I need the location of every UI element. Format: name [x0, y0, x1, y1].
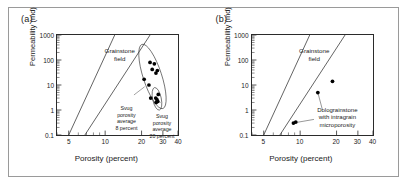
y-tick-label: 100	[238, 57, 249, 64]
y-tick-label: 1	[50, 107, 54, 114]
y-tick-label: 1	[245, 107, 249, 114]
panel-a: (a) 0.11101001000510203040Grainstone fie…	[9, 8, 204, 176]
data-point	[156, 93, 160, 97]
y-tick-label: 10	[47, 82, 54, 89]
data-point	[149, 96, 153, 100]
data-point	[152, 62, 156, 66]
y-tick-label: 10	[241, 82, 248, 89]
grainstone-field-label: Grainstone field	[291, 47, 337, 63]
data-point	[291, 121, 295, 125]
data-point	[148, 61, 152, 65]
data-point	[154, 71, 158, 75]
y-tick-label: 1000	[40, 32, 54, 39]
data-point	[150, 68, 154, 72]
panel-b-y-axis-label: Permeability (md)	[222, 0, 231, 90]
data-point	[154, 101, 158, 105]
x-tick-label: 20	[332, 138, 339, 145]
data-point	[147, 83, 151, 87]
y-tick-label: 1000	[234, 32, 248, 39]
data-point	[142, 77, 146, 81]
figure-frame: (a) 0.11101001000510203040Grainstone fie…	[8, 7, 399, 177]
panel-a-plot-area: 0.11101001000510203040Grainstone fieldSv…	[56, 34, 179, 136]
data-point	[330, 79, 334, 83]
dolograinstone-annotation: Dolograinstone with intragrain microporo…	[309, 107, 365, 130]
y-tick-label: 0.1	[239, 132, 248, 139]
data-point	[315, 91, 319, 95]
panel-a-y-axis-label: Permeability (md)	[28, 0, 37, 90]
y-tick-label: 0.1	[45, 132, 54, 139]
panel-b: (b) 0.11101001000510203040Grainstone fie…	[204, 8, 399, 176]
x-tick-label: 5	[67, 138, 71, 145]
x-tick-label: 40	[369, 138, 376, 145]
x-tick-label: 5	[261, 138, 265, 145]
panel-a-x-axis-label: Porosity (percent)	[9, 154, 204, 163]
grainstone-field-label: Grainstone field	[97, 47, 143, 63]
y-tick-label: 100	[43, 57, 54, 64]
panel-b-x-axis-label: Porosity (percent)	[204, 154, 399, 163]
x-tick-label: 10	[102, 138, 109, 145]
svug-8-annotation: Svug porosity average 8 percent	[109, 105, 143, 131]
svug-8-leader	[134, 87, 145, 95]
x-tick-label: 10	[296, 138, 303, 145]
x-tick-label: 30	[354, 138, 361, 145]
svug-20-annotation: Svug porosity average 20 percent	[145, 113, 179, 139]
panel-b-plot-area: 0.11101001000510203040Grainstone fieldDo…	[251, 34, 374, 136]
